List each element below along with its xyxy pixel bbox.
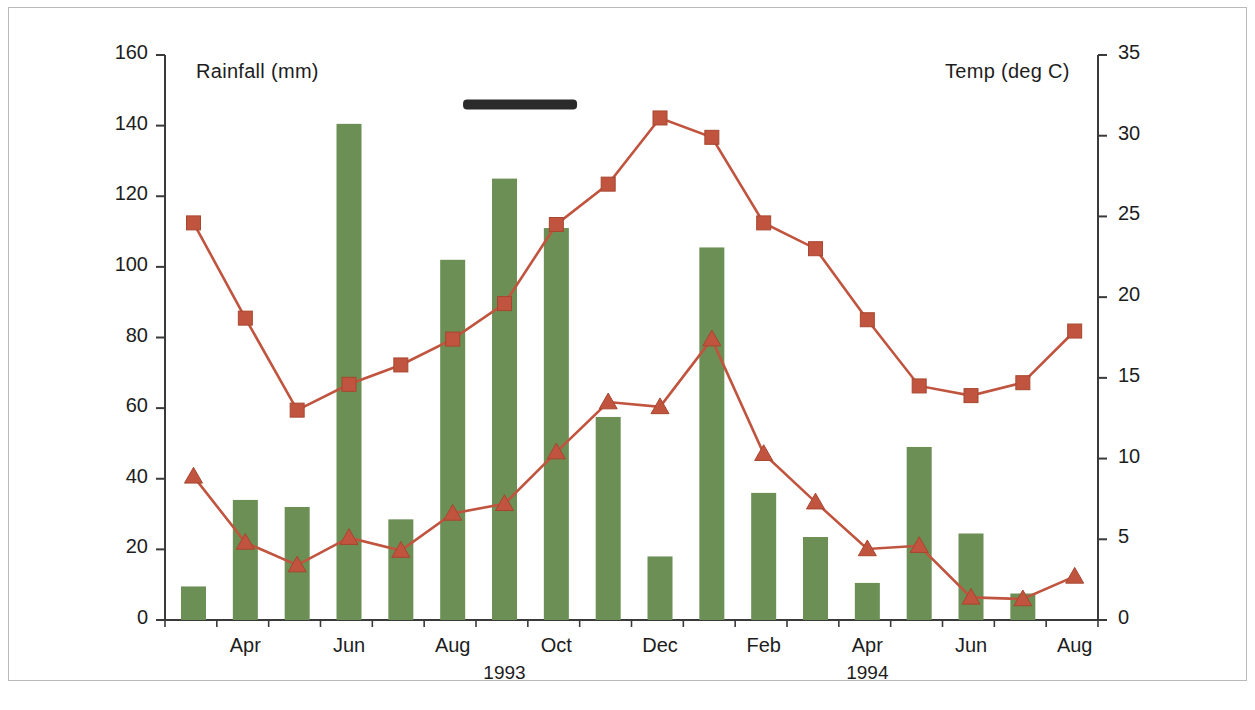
max-temp-square-marker — [757, 216, 771, 230]
max-temp-square-marker — [394, 358, 408, 372]
plot-area — [0, 0, 1255, 710]
rainfall-bar — [440, 260, 465, 620]
left-axis-tick-label: 0 — [80, 606, 148, 629]
left-axis-title: Rainfall (mm) — [196, 60, 319, 83]
max-temp-square-marker — [498, 297, 512, 311]
rainfall-bar — [959, 533, 984, 620]
x-axis-tick-label: Apr — [822, 634, 912, 657]
max-temp-line — [194, 118, 1075, 410]
max-temp-square-marker — [549, 218, 563, 232]
right-axis-tick-label: 15 — [1118, 364, 1140, 387]
max-temp-square-marker — [705, 130, 719, 144]
left-axis-tick-label: 100 — [80, 253, 148, 276]
right-axis-tick-label: 5 — [1118, 525, 1129, 548]
x-axis-tick-label: Oct — [511, 634, 601, 657]
chart-page: Rainfall (mm) Temp (deg C) 0204060801001… — [0, 0, 1255, 710]
right-axis-tick-label: 0 — [1118, 606, 1129, 629]
min-temp-triangle-marker — [1066, 567, 1084, 583]
max-temp-square-marker — [1016, 376, 1030, 390]
rainfall-bar — [751, 493, 776, 620]
rainfall-bar — [803, 537, 828, 620]
left-axis-tick-label: 60 — [80, 394, 148, 417]
x-axis-tick-label: Dec — [615, 634, 705, 657]
x-axis-tick-label: Aug — [408, 634, 498, 657]
x-axis-tick-label: Jun — [304, 634, 394, 657]
min-temp-triangle-marker — [185, 467, 203, 483]
right-axis-tick-label: 20 — [1118, 283, 1140, 306]
left-axis-tick-label: 120 — [80, 182, 148, 205]
x-axis-year-label: 1993 — [460, 662, 550, 684]
rainfall-bar — [337, 124, 362, 620]
x-axis-tick-label: Feb — [719, 634, 809, 657]
rainfall-bar — [233, 500, 258, 620]
max-temp-square-marker — [860, 313, 874, 327]
right-axis-tick-label: 10 — [1118, 445, 1140, 468]
rainfall-bar — [544, 228, 569, 620]
rainfall-bar — [492, 179, 517, 620]
max-temp-square-marker — [964, 389, 978, 403]
max-temp-square-marker — [446, 332, 460, 346]
right-axis-title: Temp (deg C) — [945, 60, 1070, 83]
left-axis-tick-label: 160 — [80, 41, 148, 64]
left-axis-tick-label: 40 — [80, 465, 148, 488]
max-temp-square-marker — [912, 379, 926, 393]
min-temp-triangle-marker — [599, 393, 617, 409]
right-axis-tick-label: 30 — [1118, 122, 1140, 145]
x-axis-year-label: 1994 — [822, 662, 912, 684]
rainfall-bar — [907, 447, 932, 620]
max-temp-square-marker — [601, 177, 615, 191]
max-temp-square-marker — [342, 377, 356, 391]
max-temp-square-marker — [1068, 324, 1082, 338]
rainfall-bar — [855, 583, 880, 620]
left-axis-tick-label: 140 — [80, 112, 148, 135]
right-axis-tick-label: 35 — [1118, 41, 1140, 64]
rainfall-bar — [388, 519, 413, 620]
max-temp-square-marker — [238, 311, 252, 325]
rainfall-bar — [596, 417, 621, 620]
rainfall-bar — [181, 586, 206, 620]
min-temp-line — [194, 339, 1075, 599]
min-temp-triangle-marker — [755, 445, 773, 461]
x-axis-tick-label: Apr — [200, 634, 290, 657]
dual-axis-rainfall-temperature-chart: Rainfall (mm) Temp (deg C) 0204060801001… — [0, 0, 1255, 710]
left-axis-tick-label: 20 — [80, 535, 148, 558]
max-temp-square-marker — [187, 216, 201, 230]
rainfall-bar — [699, 247, 724, 620]
x-axis-tick-label: Aug — [1030, 634, 1120, 657]
rainfall-bar — [648, 556, 673, 620]
max-temp-square-marker — [290, 403, 304, 417]
period-annotation-bar — [463, 99, 577, 109]
left-axis-tick-label: 80 — [80, 324, 148, 347]
max-temp-square-marker — [653, 111, 667, 125]
x-axis-tick-label: Jun — [926, 634, 1016, 657]
right-axis-tick-label: 25 — [1118, 202, 1140, 225]
max-temp-square-marker — [809, 242, 823, 256]
